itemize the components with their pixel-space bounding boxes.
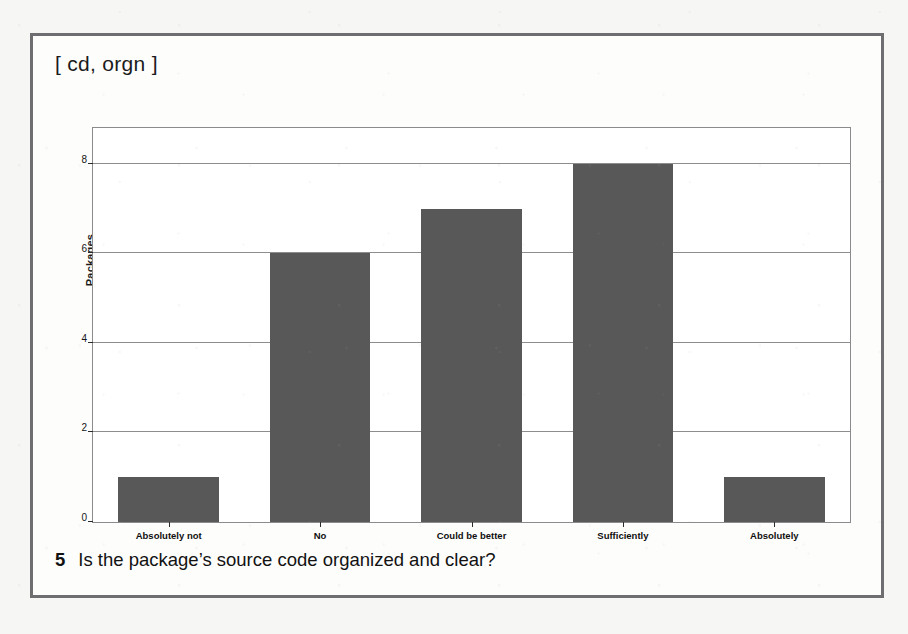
figure-tag: [ cd, orgn ] <box>55 52 158 76</box>
gridline <box>93 163 850 164</box>
y-tick-mark <box>88 163 93 164</box>
y-tick-mark <box>88 342 93 343</box>
y-tick-label: 2 <box>81 422 87 433</box>
figure-box: [ cd, orgn ] Packages 02468Absolutely no… <box>30 33 884 598</box>
caption-text: Is the package’s source code organized a… <box>78 549 495 570</box>
y-tick-mark <box>88 521 93 522</box>
y-tick-mark <box>88 252 93 253</box>
x-tick-label: Sufficiently <box>597 530 648 541</box>
x-tick-mark <box>623 522 624 527</box>
x-tick-label: Absolutely <box>750 530 799 541</box>
x-tick-label: No <box>314 530 327 541</box>
y-tick-mark <box>88 431 93 432</box>
bar <box>270 253 371 522</box>
plot-area: 02468Absolutely notNoCould be betterSuff… <box>92 127 851 523</box>
x-tick-mark <box>169 522 170 527</box>
x-tick-mark <box>320 522 321 527</box>
caption-number: 5 <box>55 549 65 570</box>
figure-caption: 5Is the package’s source code organized … <box>55 549 496 571</box>
y-tick-label: 0 <box>81 512 87 523</box>
x-tick-mark <box>472 522 473 527</box>
x-tick-label: Could be better <box>437 530 507 541</box>
bar-chart: Packages 02468Absolutely notNoCould be b… <box>33 94 887 534</box>
y-tick-label: 8 <box>81 153 87 164</box>
x-tick-mark <box>774 522 775 527</box>
y-tick-label: 6 <box>81 243 87 254</box>
bar <box>573 164 674 522</box>
bar <box>421 209 522 522</box>
y-tick-label: 4 <box>81 332 87 343</box>
bar <box>118 477 219 522</box>
x-tick-label: Absolutely not <box>136 530 202 541</box>
bar <box>724 477 825 522</box>
